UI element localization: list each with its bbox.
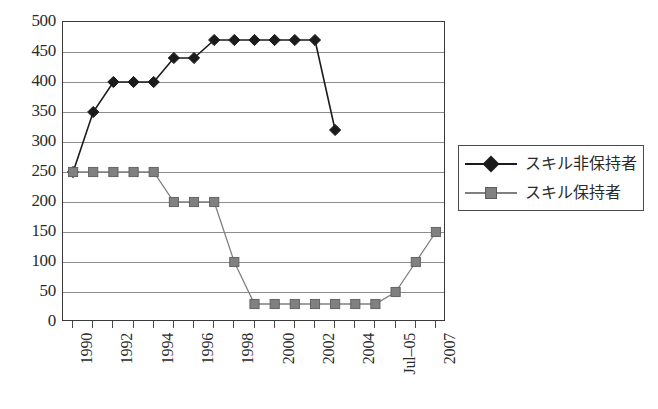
data-point-diamond <box>108 76 119 87</box>
data-point-square <box>431 227 440 236</box>
data-point-square <box>189 197 198 206</box>
data-point-square <box>351 299 360 308</box>
data-point-diamond <box>229 34 240 45</box>
x-tick <box>112 321 113 328</box>
legend-label-1: スキル保持者 <box>525 184 621 202</box>
y-tick-label: 150 <box>8 222 56 239</box>
data-point-square <box>230 257 239 266</box>
x-tick <box>435 321 436 328</box>
x-tick-label: 1996 <box>200 333 216 364</box>
data-point-square <box>391 287 400 296</box>
data-point-square <box>109 167 118 176</box>
series-line-0 <box>73 40 335 172</box>
y-tick-label: 300 <box>8 132 56 149</box>
y-axis: 500450400350300250200150100500 <box>0 0 56 409</box>
x-tick-label: 2002 <box>321 333 337 364</box>
x-tick-label: 2000 <box>281 333 297 364</box>
y-tick-label: 50 <box>8 282 56 299</box>
data-point-square <box>129 167 138 176</box>
data-point-square <box>250 299 259 308</box>
x-tick <box>374 321 375 328</box>
x-tick-label: 1998 <box>240 333 256 364</box>
data-point-square <box>371 299 380 308</box>
x-tick <box>193 321 194 328</box>
x-tick <box>133 321 134 328</box>
data-point-square <box>89 167 98 176</box>
data-point-square <box>149 167 158 176</box>
x-tick <box>233 321 234 328</box>
series-layer <box>63 22 446 322</box>
x-tick <box>274 321 275 328</box>
data-point-diamond <box>88 106 99 117</box>
data-point-square <box>169 197 178 206</box>
x-tick <box>395 321 396 328</box>
x-tick <box>254 321 255 328</box>
x-tick <box>92 321 93 328</box>
data-point-square <box>69 167 78 176</box>
data-point-square <box>411 257 420 266</box>
legend-marker-diamond <box>465 155 517 173</box>
x-tick <box>415 321 416 328</box>
x-tick <box>334 321 335 328</box>
x-tick-label: 2004 <box>361 333 377 364</box>
x-tick-label: 1994 <box>160 333 176 364</box>
legend-label-0: スキル非保持者 <box>525 155 637 173</box>
x-tick <box>153 321 154 328</box>
x-tick-label: 2007 <box>442 333 458 364</box>
x-tick-label: 1992 <box>119 333 135 364</box>
x-tick-label: Jul–05 <box>402 333 418 374</box>
y-tick-label: 100 <box>8 252 56 269</box>
data-point-square <box>210 197 219 206</box>
y-tick-label: 0 <box>8 312 56 329</box>
legend-marker-square <box>465 184 517 202</box>
y-tick-label: 200 <box>8 192 56 209</box>
x-axis: 19901992199419961998200020022004Jul–0520… <box>62 333 445 403</box>
x-tick <box>354 321 355 328</box>
data-point-diamond <box>309 34 320 45</box>
x-axis-ticks <box>62 321 445 329</box>
legend-item-0: スキル非保持者 <box>465 150 637 178</box>
data-point-diamond <box>330 124 341 135</box>
y-tick-label: 450 <box>8 42 56 59</box>
data-point-square <box>331 299 340 308</box>
plot-area <box>62 21 445 321</box>
x-tick <box>173 321 174 328</box>
data-point-diamond <box>289 34 300 45</box>
x-tick <box>294 321 295 328</box>
data-point-square <box>290 299 299 308</box>
y-tick-label: 400 <box>8 72 56 89</box>
series-line-1 <box>73 172 436 304</box>
data-point-diamond <box>249 34 260 45</box>
y-tick-label: 350 <box>8 102 56 119</box>
line-chart: 500450400350300250200150100500 199019921… <box>0 0 658 409</box>
legend: スキル非保持者 スキル保持者 <box>458 145 644 211</box>
y-tick-label: 500 <box>8 12 56 29</box>
y-tick-label: 250 <box>8 162 56 179</box>
x-tick <box>213 321 214 328</box>
data-point-diamond <box>269 34 280 45</box>
data-point-diamond <box>128 76 139 87</box>
data-point-square <box>310 299 319 308</box>
x-tick <box>72 321 73 328</box>
x-tick <box>314 321 315 328</box>
legend-item-1: スキル保持者 <box>465 179 621 207</box>
data-point-square <box>270 299 279 308</box>
x-tick-label: 1990 <box>79 333 95 364</box>
